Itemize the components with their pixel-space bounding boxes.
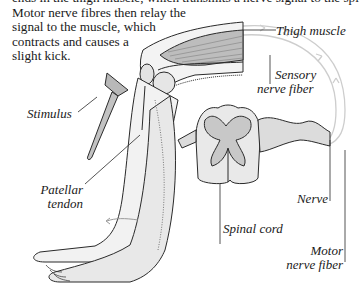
label-motor-nerve-fiber: Motor nerve fiber — [272, 244, 343, 272]
label-patellar-line-2: tendon — [28, 197, 83, 211]
label-patellar-line-1: Patellar — [28, 183, 83, 197]
label-sensory-nerve-fiber: Sensory nerve fiber — [273, 68, 316, 96]
label-motor-line-2: nerve fiber — [272, 258, 343, 272]
label-patellar-tendon: Patellar tendon — [28, 183, 83, 211]
label-sensory-line-2: nerve fiber — [257, 82, 316, 96]
label-sensory-line-1: Sensory — [273, 68, 316, 82]
label-thigh-muscle: Thigh muscle — [276, 24, 346, 38]
label-spinal-cord: Spinal cord — [223, 222, 283, 236]
label-motor-line-1: Motor — [272, 244, 343, 258]
spinal-cord — [196, 105, 260, 184]
label-nerve: Nerve — [285, 192, 328, 206]
reflex-hammer-icon — [87, 73, 128, 160]
label-stimulus: Stimulus — [27, 107, 72, 121]
